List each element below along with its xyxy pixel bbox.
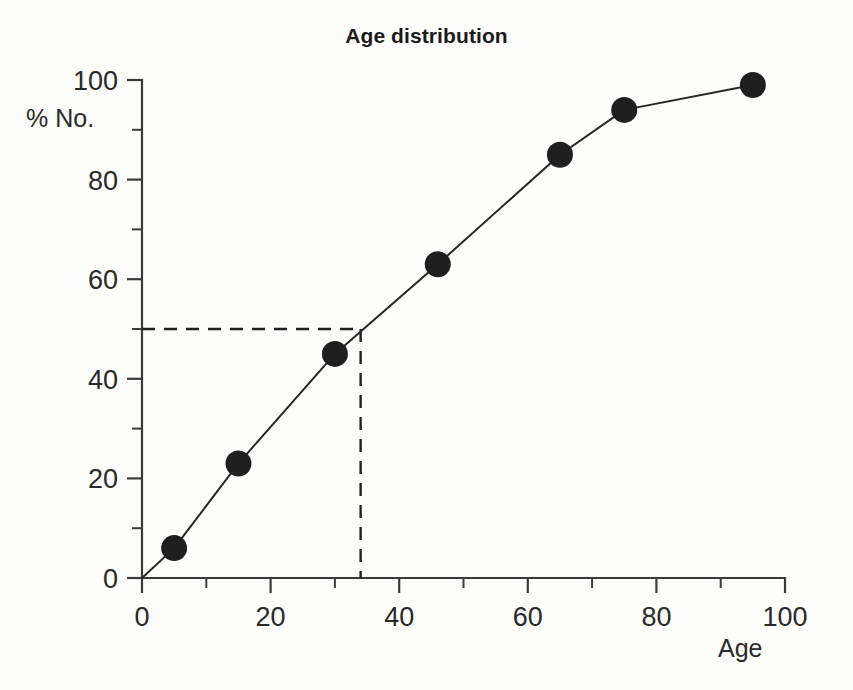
data-point-marker: [322, 341, 348, 367]
x-tick-label: 60: [513, 602, 543, 632]
y-tick-group: [127, 80, 142, 578]
y-axis: 020406080100: [73, 66, 142, 594]
data-point-marker: [425, 251, 451, 277]
series-line-group: [142, 85, 753, 578]
data-point-marker: [547, 142, 573, 168]
plot-area: 020406080100 020406080100: [0, 0, 853, 690]
y-tick-label: 0: [103, 564, 118, 594]
chart-container: Age distribution % No. Age 020406080100 …: [0, 0, 853, 690]
x-tick-label: 100: [762, 602, 807, 632]
y-tick-label: 80: [88, 166, 118, 196]
x-tick-label: 20: [256, 602, 286, 632]
x-tick-label: 0: [134, 602, 149, 632]
x-axis: 020406080100: [134, 578, 807, 632]
x-tick-label-group: 020406080100: [134, 602, 807, 632]
y-tick-label: 20: [88, 464, 118, 494]
y-tick-label: 40: [88, 365, 118, 395]
x-tick-label: 40: [384, 602, 414, 632]
y-tick-label-group: 020406080100: [73, 66, 118, 594]
y-tick-label: 60: [88, 265, 118, 295]
series-line: [142, 85, 753, 578]
series-marker-group: [161, 72, 766, 561]
data-point-marker: [225, 450, 251, 476]
x-tick-group: [142, 578, 785, 593]
x-tick-label: 80: [641, 602, 671, 632]
data-point-marker: [161, 535, 187, 561]
data-point-marker: [740, 72, 766, 98]
data-point-marker: [611, 97, 637, 123]
y-tick-label: 100: [73, 66, 118, 96]
